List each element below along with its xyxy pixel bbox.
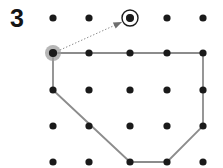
grid-dot-r2-c1[interactable] [85,86,92,93]
grid-dot-r4-c2[interactable] [126,158,133,165]
grid-dot-r4-c1[interactable] [85,158,92,165]
grid-dot-r0-c4[interactable] [199,14,206,21]
grid-dot-r3-c4[interactable] [199,122,206,129]
grid-dot-r4-c4[interactable] [199,158,206,165]
grid-dots [49,14,206,165]
grid-dot-r0-c1[interactable] [85,14,92,21]
grid-dot-r3-c1[interactable] [85,122,92,129]
polygon-outline [53,53,203,162]
grid-dot-r0-c3[interactable] [163,14,170,21]
grid-dot-r4-c3[interactable] [163,158,170,165]
grid-dot-r2-c0[interactable] [49,86,56,93]
grid-dot-r3-c3[interactable] [163,122,170,129]
grid-dot-r2-c4[interactable] [199,86,206,93]
arrow-shaft [60,22,122,50]
move-arrow [60,22,122,50]
grid-dot-r1-c2[interactable] [126,49,133,56]
arrow-head [113,22,122,29]
grid-dot-r3-c0[interactable] [49,122,56,129]
grid-dot-r2-c3[interactable] [163,86,170,93]
geoboard-canvas [0,0,223,168]
grid-dot-r4-c0[interactable] [49,158,56,165]
start-vertex-dot[interactable] [49,49,57,57]
grid-dot-r3-c2[interactable] [126,122,133,129]
polygon-shape [53,53,203,162]
grid-dot-r1-c4[interactable] [199,49,206,56]
target-dot[interactable] [126,14,134,22]
grid-dot-r1-c1[interactable] [85,49,92,56]
grid-dot-r2-c2[interactable] [126,86,133,93]
grid-dot-r1-c3[interactable] [163,49,170,56]
grid-dot-r0-c0[interactable] [49,14,56,21]
